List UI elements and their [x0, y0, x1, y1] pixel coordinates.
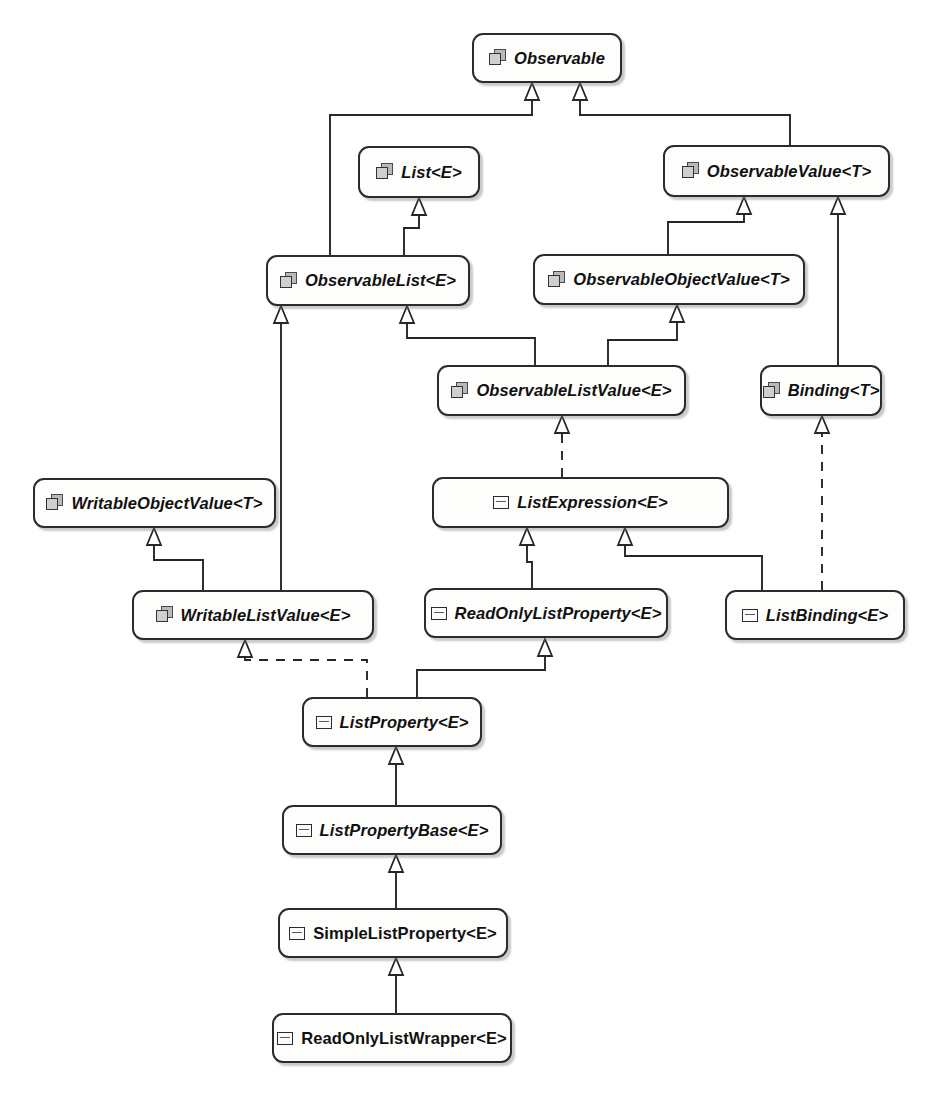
uml-box-content: ListBinding<E> — [732, 606, 898, 625]
uml-class-name: WritableObjectValue<T> — [71, 494, 262, 513]
edge-listproperty-readonlylistproperty — [417, 651, 545, 697]
edge-observablelist-list — [404, 210, 419, 255]
uml-box-content: List<E> — [366, 163, 471, 182]
interface-icon — [489, 49, 507, 67]
arrowhead-observablelistvalue-observableobjectvalue — [670, 305, 684, 322]
uml-class-box-listproperty[interactable]: ListProperty<E> — [302, 697, 482, 747]
uml-box-content: Observable — [479, 49, 615, 68]
interface-icon — [46, 494, 64, 512]
uml-class-box-simplelistproperty[interactable]: SimpleListProperty<E> — [278, 908, 508, 958]
uml-class-name: ReadOnlyListProperty<E> — [455, 604, 662, 623]
arrowhead-writablelistvalue-observablelist — [274, 306, 288, 323]
uml-class-box-writableobjectvalue[interactable]: WritableObjectValue<T> — [33, 478, 276, 528]
arrowhead-listexpression-observablelistvalue — [555, 416, 569, 433]
arrowhead-observablelist-observable — [525, 83, 539, 100]
uml-class-box-listbinding[interactable]: ListBinding<E> — [725, 590, 905, 640]
uml-class-box-readonlylistproperty[interactable]: ReadOnlyListProperty<E> — [424, 588, 668, 638]
arrowhead-readonlylistwrapper-simplelistproperty — [389, 958, 403, 975]
arrowhead-readonlylistproperty-listexpression — [520, 528, 534, 545]
uml-class-box-observablelist[interactable]: ObservableList<E> — [266, 255, 470, 306]
uml-box-content: ObservableListValue<E> — [441, 381, 681, 400]
uml-class-name: WritableListValue<E> — [181, 606, 351, 625]
interface-icon — [156, 606, 174, 624]
arrowhead-observablelist-list — [412, 198, 426, 215]
uml-box-content: WritableObjectValue<T> — [36, 494, 272, 513]
uml-class-name: Observable — [514, 49, 605, 68]
interface-icon — [451, 382, 469, 400]
class-icon — [277, 1031, 294, 1046]
arrowhead-observablelistvalue-observablelist — [400, 306, 414, 323]
uml-class-box-observable[interactable]: Observable — [472, 33, 622, 83]
edge-observablelistvalue-observableobjectvalue — [608, 317, 677, 365]
interface-icon — [682, 162, 700, 180]
uml-box-content: ReadOnlyListWrapper<E> — [267, 1029, 516, 1048]
uml-class-box-observableobjectvalue[interactable]: ObservableObjectValue<T> — [533, 254, 805, 305]
edge-observablevalue-observable — [580, 95, 790, 145]
uml-class-name: ReadOnlyListWrapper<E> — [301, 1029, 506, 1048]
uml-class-name: ListProperty<E> — [340, 713, 469, 732]
uml-box-content: ListExpression<E> — [483, 493, 677, 512]
uml-class-name: ObservableListValue<E> — [476, 381, 671, 400]
arrowhead-listpropertybase-listproperty — [389, 747, 403, 764]
class-icon — [296, 823, 313, 838]
arrowhead-observableobjectvalue-observablevalue — [737, 197, 751, 214]
edge-readonlylistproperty-listexpression — [527, 540, 532, 588]
edge-observablelistvalue-observablelist — [407, 318, 535, 365]
interface-icon — [280, 272, 298, 290]
uml-class-box-observablevalue[interactable]: ObservableValue<T> — [663, 145, 890, 197]
edge-writablelistvalue-writableobjectvalue — [154, 540, 203, 590]
arrowhead-listbinding-listexpression — [618, 528, 632, 545]
uml-class-box-observablelistvalue[interactable]: ObservableListValue<E> — [437, 365, 686, 416]
uml-class-name: ListPropertyBase<E> — [320, 821, 489, 840]
arrowhead-observablevalue-observable — [573, 83, 587, 100]
uml-box-content: ListPropertyBase<E> — [286, 821, 499, 840]
arrowhead-listbinding-binding — [815, 416, 829, 433]
interface-icon — [376, 163, 394, 181]
uml-box-content: WritableListValue<E> — [146, 606, 361, 625]
uml-box-content: Binding<T> — [753, 381, 890, 400]
arrowhead-listproperty-readonlylistproperty — [538, 639, 552, 656]
uml-class-name: ObservableList<E> — [305, 271, 456, 290]
uml-class-box-writablelistvalue[interactable]: WritableListValue<E> — [132, 590, 374, 640]
uml-class-name: Binding<T> — [788, 381, 880, 400]
class-icon — [431, 606, 448, 621]
uml-class-name: ObservableValue<T> — [707, 162, 871, 181]
class-icon — [316, 715, 333, 730]
arrowhead-binding-observablevalue — [831, 197, 845, 214]
class-icon — [289, 926, 306, 941]
edge-observableobjectvalue-observablevalue — [668, 209, 744, 254]
uml-class-name: SimpleListProperty<E> — [313, 924, 497, 943]
uml-class-name: ListBinding<E> — [766, 606, 888, 625]
uml-class-name: ListExpression<E> — [517, 493, 667, 512]
arrowhead-listproperty-writablelistvalue — [238, 640, 252, 657]
uml-box-content: SimpleListProperty<E> — [279, 924, 507, 943]
edge-listproperty-writablelistvalue — [245, 652, 367, 697]
uml-class-box-list[interactable]: List<E> — [358, 146, 480, 198]
uml-box-content: ObservableList<E> — [270, 271, 466, 290]
edge-listbinding-listexpression — [625, 540, 762, 590]
uml-diagram-canvas: ObservableList<E>ObservableValue<T>Obser… — [0, 0, 934, 1095]
uml-class-box-listexpression[interactable]: ListExpression<E> — [432, 477, 729, 528]
uml-class-box-binding[interactable]: Binding<T> — [760, 365, 882, 416]
uml-class-name: List<E> — [401, 163, 461, 182]
uml-box-content: ObservableValue<T> — [672, 162, 881, 181]
uml-box-content: ObservableObjectValue<T> — [538, 270, 799, 289]
interface-icon — [763, 382, 781, 400]
arrowhead-writablelistvalue-writableobjectvalue — [147, 528, 161, 545]
arrowhead-simplelistproperty-listpropertybase — [389, 855, 403, 872]
uml-class-box-listpropertybase[interactable]: ListPropertyBase<E> — [282, 805, 502, 855]
uml-box-content: ListProperty<E> — [306, 713, 479, 732]
interface-icon — [548, 271, 566, 289]
class-icon — [742, 608, 759, 623]
uml-class-box-readonlylistwrapper[interactable]: ReadOnlyListWrapper<E> — [272, 1013, 512, 1063]
class-icon — [493, 495, 510, 510]
uml-class-name: ObservableObjectValue<T> — [573, 270, 789, 289]
uml-box-content: ReadOnlyListProperty<E> — [421, 604, 672, 623]
